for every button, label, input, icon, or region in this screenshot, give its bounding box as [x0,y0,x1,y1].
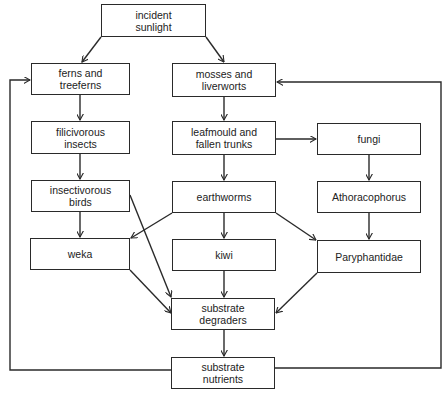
node-substrate-nutrients: substrate nutrients [171,357,275,389]
node-label: substrate degraders [199,302,246,326]
edge-sunlight-mosses [206,37,224,62]
node-ferns-and-treeferns: ferns and treeferns [31,63,130,95]
node-fungi: fungi [317,123,421,155]
node-label: filicivorous insects [56,126,105,150]
node-paryphantidae: Paryphantidae [317,240,421,273]
node-insectivorous-birds: insectivorous birds [31,180,130,212]
node-substrate-degraders: substrate degraders [171,298,275,330]
edge-paryphantidae-degraders [276,273,317,313]
edge-insectivorous-degraders [130,195,171,297]
node-label: substrate nutrients [201,361,244,385]
edge-sunlight-ferns [82,37,101,62]
food-web-diagram: incident sunlight ferns and treeferns mo… [0,0,448,394]
node-earthworms: earthworms [172,181,276,213]
node-filicivorous-insects: filicivorous insects [31,121,130,154]
node-kiwi: kiwi [172,239,276,271]
edge-earthworms-weka [131,213,172,238]
node-incident-sunlight: incident sunlight [101,4,206,37]
node-label: ferns and treeferns [59,67,103,91]
edge-earthworms-paryphantidae [276,213,316,240]
node-label: mosses and liverworts [196,68,253,92]
node-leafmould-and-fallen-trunks: leafmould and fallen trunks [172,121,276,155]
node-label: earthworms [197,191,252,203]
node-label: Athoracophorus [332,191,406,203]
node-label: incident sunlight [135,9,171,33]
edge-weka-degraders [130,270,171,313]
node-athoracophorus: Athoracophorus [317,181,421,213]
node-label: leafmould and fallen trunks [191,126,257,150]
node-weka: weka [30,238,130,270]
node-label: weka [68,248,93,260]
node-label: Paryphantidae [335,251,403,263]
node-label: insectivorous birds [50,184,111,208]
node-label: fungi [358,133,381,145]
node-mosses-and-liverworts: mosses and liverworts [172,63,276,97]
node-label: kiwi [215,249,233,261]
